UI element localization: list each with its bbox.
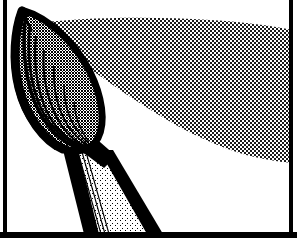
frame-left-border xyxy=(3,0,7,238)
illustration-stage: Paintbrush A pointed round paintbrush an… xyxy=(0,0,297,246)
frame-right-border xyxy=(289,0,293,238)
paintbrush-illustration: Paintbrush A pointed round paintbrush an… xyxy=(0,0,297,246)
artboard: Paintbrush A pointed round paintbrush an… xyxy=(0,0,297,246)
baseline xyxy=(0,232,297,238)
